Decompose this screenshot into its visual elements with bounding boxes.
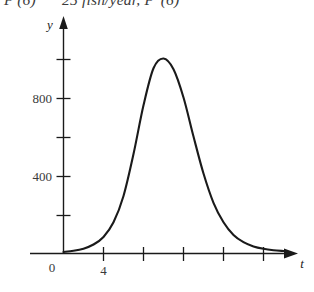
origin-label: 0 — [49, 260, 56, 275]
y-axis-label: y — [45, 17, 53, 32]
figure-page: P′(6)25 fish/year, P″(6) y t 800 400 4 0 — [0, 0, 314, 292]
y-tick-label-800: 800 — [33, 91, 53, 106]
x-axis-arrowhead — [284, 249, 298, 259]
y-axis-arrowhead — [59, 16, 68, 29]
y-tick-label-400: 400 — [33, 169, 53, 184]
data-curve — [64, 58, 284, 251]
x-tick-label-4: 4 — [100, 263, 107, 278]
x-axis-label: t — [300, 256, 304, 271]
graph-figure: y t 800 400 4 0 — [0, 0, 314, 292]
